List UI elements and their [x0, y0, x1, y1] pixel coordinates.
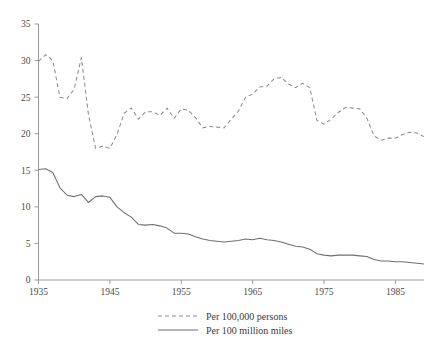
series-line-2 [39, 169, 425, 264]
chart-axes [35, 24, 425, 284]
y-axis-tick-labels: 05101520253035 [21, 19, 31, 285]
legend-label-1: Per 100,000 persons [206, 311, 287, 322]
y-tick-label: 20 [21, 129, 31, 139]
x-tick-label: 1975 [315, 287, 334, 297]
chart-legend: Per 100,000 personsPer 100 million miles [158, 311, 292, 336]
x-tick-label: 1985 [386, 287, 405, 297]
x-axis-tick-labels: 193519451955196519751985 [29, 287, 405, 297]
y-tick-label: 30 [21, 56, 31, 66]
y-tick-label: 15 [21, 166, 31, 176]
x-tick-label: 1945 [100, 287, 119, 297]
line-chart: 05101520253035 193519451955196519751985 … [0, 0, 444, 350]
chart-series [39, 55, 425, 264]
x-tick-label: 1965 [243, 287, 262, 297]
y-tick-label: 0 [26, 275, 31, 285]
y-tick-label: 5 [26, 239, 31, 249]
y-tick-label: 25 [21, 93, 31, 103]
x-tick-label: 1955 [172, 287, 191, 297]
series-line-1 [39, 55, 425, 149]
chart-container: 05101520253035 193519451955196519751985 … [0, 0, 444, 350]
legend-label-2: Per 100 million miles [206, 325, 292, 336]
x-tick-label: 1935 [29, 287, 48, 297]
y-tick-label: 35 [21, 19, 31, 29]
y-tick-label: 10 [21, 202, 31, 212]
